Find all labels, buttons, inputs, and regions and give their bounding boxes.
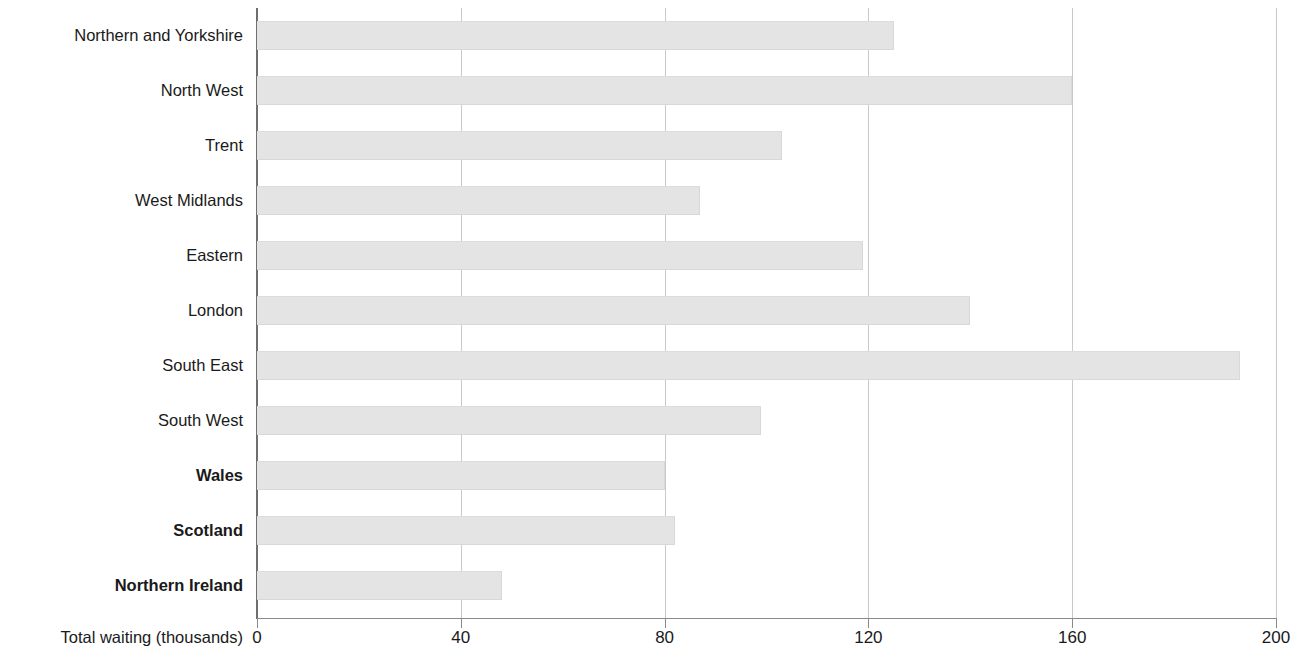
x-tick-label: 80 [655,628,674,648]
category-label: Northern and Yorkshire [0,8,243,63]
category-label: London [0,283,243,338]
x-tick-mark [257,619,258,628]
bar-row [257,448,1276,503]
category-axis-labels: Northern and YorkshireNorth WestTrentWes… [0,8,243,619]
bar-row [257,63,1276,118]
bar [257,351,1240,380]
plot-area [257,8,1276,619]
category-label: Trent [0,118,243,173]
x-tick-label: 120 [854,628,882,648]
bar-row [257,558,1276,613]
category-label: West Midlands [0,173,243,228]
bar [257,131,782,160]
x-tick-label: 200 [1262,628,1290,648]
x-tick-mark [1072,619,1073,628]
x-tick-label: 40 [451,628,470,648]
x-axis-line [257,618,1277,619]
bar [257,296,970,325]
x-tick-mark [868,619,869,628]
bar-row [257,8,1276,63]
bar-row [257,503,1276,558]
x-tick-mark [665,619,666,628]
x-tick-label: 0 [252,628,261,648]
bar-row [257,283,1276,338]
bar-row [257,173,1276,228]
category-label: South East [0,338,243,393]
bar [257,461,665,490]
x-tick-mark [1276,619,1277,628]
x-tick-label: 160 [1058,628,1086,648]
bar [257,186,700,215]
bar-chart: Northern and YorkshireNorth WestTrentWes… [0,0,1302,659]
x-axis-title: Total waiting (thousands) [0,628,243,647]
bar [257,241,863,270]
category-label: South West [0,393,243,448]
category-label: Scotland [0,503,243,558]
bar [257,21,894,50]
category-label: Wales [0,448,243,503]
bar [257,516,675,545]
bar-row [257,228,1276,283]
bar [257,76,1072,105]
bar-row [257,393,1276,448]
category-label: Eastern [0,228,243,283]
bar [257,571,502,600]
category-label: Northern Ireland [0,558,243,613]
gridline-200 [1276,8,1277,619]
x-tick-mark [461,619,462,628]
bar [257,406,761,435]
bar-row [257,338,1276,393]
category-label: North West [0,63,243,118]
bar-row [257,118,1276,173]
